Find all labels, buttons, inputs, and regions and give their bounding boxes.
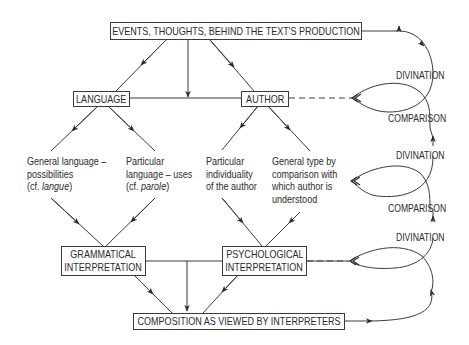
text-line: Particular: [126, 155, 192, 168]
general-language-text: General language – possibilities (cf. la…: [27, 155, 106, 193]
text-line: comparison with: [272, 168, 337, 181]
grammatical-interpretation-box: GRAMMATICAL INTERPRETATION: [61, 246, 146, 276]
text-part: langue: [42, 180, 69, 192]
general-type-text: General type by comparison with which au…: [272, 155, 337, 205]
divination-label-2: DIVINATION: [396, 150, 445, 161]
grammatical-label-line2: INTERPRETATION: [65, 261, 142, 274]
text-line: (cf. parole): [126, 180, 192, 193]
text-line: individuality: [206, 168, 257, 181]
comparison-label-2: COMPARISON: [388, 203, 446, 214]
text-part: (cf.: [27, 180, 42, 192]
grammatical-label-line1: GRAMMATICAL: [71, 248, 137, 261]
events-label: EVENTS, THOUGHTS, BEHIND THE TEXT'S PROD…: [112, 25, 360, 38]
comparison-label-1: COMPARISON: [388, 113, 446, 124]
particular-language-text: Particular language – uses (cf. parole): [126, 155, 192, 193]
text-line: understood: [272, 193, 337, 206]
events-box: EVENTS, THOUGHTS, BEHIND THE TEXT'S PROD…: [110, 22, 362, 40]
author-box: AUTHOR: [241, 91, 289, 107]
loop-top: [362, 31, 433, 72]
language-label: LANGUAGE: [76, 93, 126, 106]
psychological-interpretation-box: PSYCHOLOGICAL INTERPRETATION: [222, 246, 307, 276]
language-box: LANGUAGE: [73, 91, 130, 107]
divination-label-1: DIVINATION: [396, 70, 445, 81]
text-line: language – uses: [126, 168, 192, 181]
psychological-label-line2: INTERPRETATION: [226, 261, 303, 274]
text-part: ): [69, 180, 72, 192]
text-line: Particular: [206, 155, 257, 168]
text-line: which author is: [272, 180, 337, 193]
text-line: General language –: [27, 155, 106, 168]
text-part: parole: [141, 180, 166, 192]
psychological-label-line1: PSYCHOLOGICAL: [226, 248, 303, 261]
author-label: AUTHOR: [246, 93, 284, 106]
composition-box: COMPOSITION AS VIEWED BY INTERPRETERS: [133, 313, 345, 330]
text-line: (cf. langue): [27, 180, 106, 193]
composition-label: COMPOSITION AS VIEWED BY INTERPRETERS: [137, 315, 340, 328]
text-part: (cf.: [126, 180, 141, 192]
text-part: ): [166, 180, 169, 192]
text-line: General type by: [272, 155, 337, 168]
divination-label-3: DIVINATION: [396, 232, 445, 243]
particular-individuality-text: Particular individuality of the author: [206, 155, 257, 193]
text-line: of the author: [206, 180, 257, 193]
text-line: possibilities: [27, 168, 106, 181]
